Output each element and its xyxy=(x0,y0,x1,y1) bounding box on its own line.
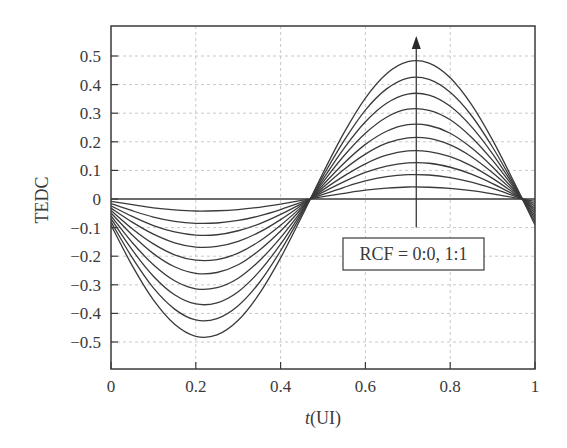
rcf-label-box: RCF = 0:0, 1:1 xyxy=(343,238,484,270)
y-tick-label: 0.4 xyxy=(80,76,102,95)
x-axis-label: t(UI) xyxy=(305,408,341,429)
x-tick-label: 0.4 xyxy=(270,377,292,396)
y-tick-label: −0.4 xyxy=(70,304,101,323)
y-tick-label: −0.5 xyxy=(70,333,101,352)
plot-frame xyxy=(111,26,535,369)
y-tick-label: 0.1 xyxy=(80,161,101,180)
arrow-head-icon xyxy=(412,36,421,49)
tedc-chart: 00.20.40.60.810.50.40.30.20.10−0.1−0.2−0… xyxy=(0,0,567,448)
y-tick-label: 0.2 xyxy=(80,133,101,152)
axis-ticks: 00.20.40.60.810.50.40.30.20.10−0.1−0.2−0… xyxy=(70,47,539,396)
x-tick-label: 0.6 xyxy=(355,377,376,396)
rcf-label: RCF = 0:0, 1:1 xyxy=(359,244,467,264)
y-tick-label: −0.3 xyxy=(70,276,101,295)
y-axis-label: TEDC xyxy=(32,177,52,224)
x-tick-label: 1 xyxy=(531,377,540,396)
x-tick-label: 0.8 xyxy=(440,377,461,396)
y-tick-label: −0.2 xyxy=(70,247,101,266)
x-tick-label: 0.2 xyxy=(185,377,206,396)
y-tick-label: −0.1 xyxy=(70,219,101,238)
curves xyxy=(111,61,535,338)
grid-lines xyxy=(111,26,535,369)
x-tick-label: 0 xyxy=(107,377,116,396)
y-tick-label: 0.3 xyxy=(80,104,101,123)
y-tick-label: 0.5 xyxy=(80,47,101,66)
y-tick-label: 0 xyxy=(93,190,102,209)
